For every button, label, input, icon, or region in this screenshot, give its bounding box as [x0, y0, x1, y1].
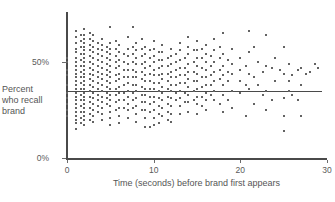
data-point — [141, 71, 143, 73]
data-point — [253, 103, 255, 105]
data-point — [265, 65, 267, 67]
data-point — [83, 111, 85, 113]
data-point — [167, 73, 169, 75]
data-point — [187, 71, 189, 73]
data-point — [75, 80, 77, 82]
data-point — [83, 88, 85, 90]
data-point — [144, 80, 146, 82]
data-point — [101, 113, 103, 115]
data-point — [184, 57, 186, 59]
data-point — [106, 80, 108, 82]
data-point — [118, 115, 120, 117]
data-point — [227, 80, 229, 82]
data-point — [123, 92, 125, 94]
data-point — [144, 101, 146, 103]
data-point — [83, 99, 85, 101]
data-point — [205, 76, 207, 78]
data-point — [92, 63, 94, 65]
data-point — [153, 124, 155, 126]
data-point — [205, 61, 207, 63]
data-point — [115, 40, 117, 42]
data-point — [245, 84, 247, 86]
data-point — [135, 113, 137, 115]
data-point — [141, 94, 143, 96]
data-point — [127, 63, 129, 65]
data-point — [109, 26, 111, 28]
data-point — [118, 122, 120, 124]
data-point — [127, 48, 129, 50]
data-point — [291, 94, 293, 96]
data-point — [158, 122, 160, 124]
data-point — [83, 107, 85, 109]
data-point — [144, 109, 146, 111]
data-point — [97, 94, 99, 96]
data-point — [101, 49, 103, 51]
data-point — [213, 99, 215, 101]
data-point — [205, 84, 207, 86]
data-point — [127, 117, 129, 119]
data-point — [283, 73, 285, 75]
data-point — [109, 65, 111, 67]
data-point — [227, 59, 229, 61]
data-point — [92, 69, 94, 71]
data-point — [253, 76, 255, 78]
data-point — [101, 107, 103, 109]
data-point — [222, 111, 224, 113]
data-point — [248, 51, 250, 53]
data-point — [153, 55, 155, 57]
x-axis-tick-label: 10 — [139, 165, 169, 175]
data-point — [132, 92, 134, 94]
data-point — [109, 88, 111, 90]
data-point — [118, 73, 120, 75]
data-point — [115, 94, 117, 96]
data-point — [106, 74, 108, 76]
data-point — [196, 57, 198, 59]
data-point — [118, 44, 120, 46]
data-point — [141, 101, 143, 103]
data-point — [83, 42, 85, 44]
data-point — [97, 111, 99, 113]
data-point — [205, 109, 207, 111]
data-point — [106, 63, 108, 65]
data-point — [170, 105, 172, 107]
data-point — [75, 30, 77, 32]
data-point — [153, 61, 155, 63]
data-point — [170, 63, 172, 65]
data-point — [89, 73, 91, 75]
data-point — [89, 67, 91, 69]
data-point — [75, 57, 77, 59]
data-point — [262, 94, 264, 96]
data-point — [317, 67, 319, 69]
data-point — [109, 48, 111, 50]
data-point — [106, 86, 108, 88]
data-point — [231, 73, 233, 75]
data-point — [75, 92, 77, 94]
data-point — [144, 46, 146, 48]
data-point — [92, 40, 94, 42]
data-point — [153, 69, 155, 71]
data-point — [153, 101, 155, 103]
data-point — [83, 124, 85, 126]
data-point — [179, 49, 181, 51]
data-point — [80, 117, 82, 119]
y-axis-tick-label: 50% — [32, 57, 49, 67]
data-point — [127, 76, 129, 78]
data-point — [300, 115, 302, 117]
data-point — [170, 55, 172, 57]
data-point — [144, 94, 146, 96]
data-point — [97, 76, 99, 78]
data-point — [184, 82, 186, 84]
data-point — [144, 67, 146, 69]
data-point — [210, 55, 212, 57]
data-point — [305, 73, 307, 75]
data-point — [115, 61, 117, 63]
data-point — [149, 111, 151, 113]
data-point — [135, 57, 137, 59]
data-point — [80, 99, 82, 101]
data-point — [239, 80, 241, 82]
data-point — [309, 71, 311, 73]
data-point — [149, 80, 151, 82]
data-point — [213, 38, 215, 40]
data-point — [106, 103, 108, 105]
data-point — [80, 94, 82, 96]
